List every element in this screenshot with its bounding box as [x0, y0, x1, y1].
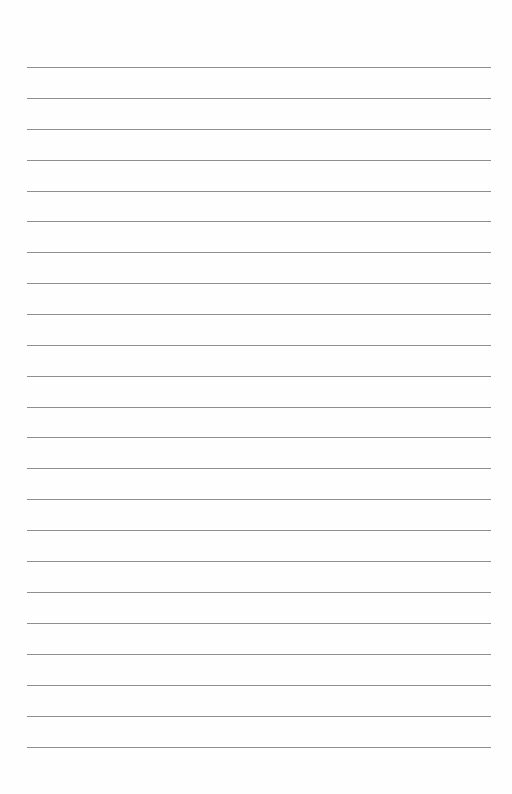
- ruled-line: [27, 561, 491, 562]
- ruled-line: [27, 221, 491, 222]
- ruled-line: [27, 499, 491, 500]
- ruled-line: [27, 67, 491, 68]
- ruled-line: [27, 376, 491, 377]
- ruled-line: [27, 530, 491, 531]
- ruled-line: [27, 437, 491, 438]
- ruled-line: [27, 623, 491, 624]
- ruled-line: [27, 407, 491, 408]
- ruled-line: [27, 716, 491, 717]
- ruled-line: [27, 592, 491, 593]
- ruled-line: [27, 129, 491, 130]
- ruled-line: [27, 252, 491, 253]
- ruled-line: [27, 314, 491, 315]
- ruled-line: [27, 98, 491, 99]
- ruled-line: [27, 468, 491, 469]
- ruled-line: [27, 654, 491, 655]
- lined-paper-page: [0, 0, 512, 794]
- ruled-line: [27, 345, 491, 346]
- ruled-line: [27, 283, 491, 284]
- ruled-line: [27, 191, 491, 192]
- ruled-line: [27, 747, 491, 748]
- ruled-line: [27, 160, 491, 161]
- ruled-line: [27, 685, 491, 686]
